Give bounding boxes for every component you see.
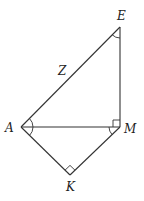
angle-arc-a-lower [30, 127, 33, 135]
segment-km [70, 127, 120, 175]
side-label-z: Z [57, 64, 67, 78]
angle-arc-m [109, 127, 112, 135]
segment-ak [21, 127, 70, 175]
angle-arc-e [112, 35, 120, 38]
geometry-diagram: E A M K Z [0, 0, 144, 201]
segment-ae [21, 27, 120, 127]
right-angle-m [113, 120, 120, 127]
angle-arc-a-upper [30, 119, 34, 128]
right-angle-k [65, 165, 75, 170]
point-label-e: E [116, 9, 126, 23]
point-label-a: A [4, 121, 14, 135]
point-label-m: M [123, 122, 137, 136]
point-label-k: K [65, 180, 76, 194]
